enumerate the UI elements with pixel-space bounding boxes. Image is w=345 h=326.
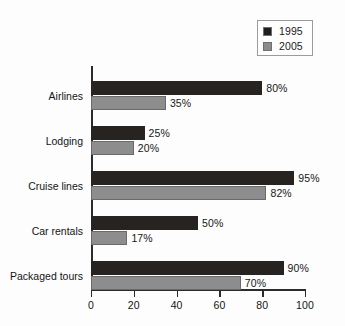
bar-chart-figure: 1995 2005 Airlines Lodging Cruise lines …: [0, 0, 345, 326]
x-tick-label-60: 60: [213, 299, 225, 311]
x-tick-label-0: 0: [88, 299, 94, 311]
plot-area: 80% 35% 25% 20% 95% 82% 50% 17% 90% 70%: [91, 66, 305, 290]
legend-item-2005: 2005: [263, 39, 308, 54]
bar-value-car-rentals-2005: 17%: [131, 231, 152, 245]
legend-label-2005: 2005: [279, 41, 303, 52]
bar-cruise-lines-2005: [91, 186, 266, 200]
x-tick-40: [177, 291, 178, 297]
chart-legend: 1995 2005: [257, 20, 313, 56]
bar-lodging-1995: [91, 126, 145, 140]
category-label-lodging: Lodging: [46, 135, 83, 147]
x-tick-label-40: 40: [171, 299, 183, 311]
bar-cruise-lines-1995: [91, 171, 294, 185]
x-tick-label-20: 20: [128, 299, 140, 311]
bar-value-cruise-lines-1995: 95%: [298, 171, 319, 185]
gray-swatch-icon: [263, 42, 272, 51]
bar-packaged-tours-1995: [91, 261, 284, 275]
dark-swatch-icon: [263, 27, 272, 36]
category-label-cruise-lines: Cruise lines: [28, 180, 83, 192]
x-tick-100: [305, 291, 306, 297]
bar-car-rentals-1995: [91, 216, 198, 230]
bar-lodging-2005: [91, 141, 134, 155]
bar-value-lodging-1995: 25%: [149, 126, 170, 140]
bar-airlines-2005: [91, 96, 166, 110]
category-label-car-rentals: Car rentals: [32, 225, 83, 237]
bar-value-cruise-lines-2005: 82%: [270, 186, 291, 200]
bar-car-rentals-2005: [91, 231, 127, 245]
category-label-airlines: Airlines: [49, 90, 83, 102]
bar-value-airlines-1995: 80%: [266, 81, 287, 95]
bar-value-airlines-2005: 35%: [170, 96, 191, 110]
bar-packaged-tours-2005: [91, 276, 241, 290]
bar-value-packaged-tours-2005: 70%: [245, 276, 266, 290]
x-tick-0: [91, 291, 92, 297]
bar-value-packaged-tours-1995: 90%: [288, 261, 309, 275]
bar-value-car-rentals-1995: 50%: [202, 216, 223, 230]
bar-airlines-1995: [91, 81, 262, 95]
bar-value-lodging-2005: 20%: [138, 141, 159, 155]
legend-label-1995: 1995: [279, 26, 303, 37]
category-label-group: Airlines Lodging Cruise lines Car rental…: [0, 66, 86, 290]
x-tick-label-100: 100: [296, 299, 314, 311]
legend-item-1995: 1995: [263, 24, 308, 39]
x-tick-80: [262, 291, 263, 297]
x-tick-60: [219, 291, 220, 297]
x-tick-20: [134, 291, 135, 297]
category-label-packaged-tours: Packaged tours: [10, 270, 83, 282]
x-tick-label-80: 80: [256, 299, 268, 311]
